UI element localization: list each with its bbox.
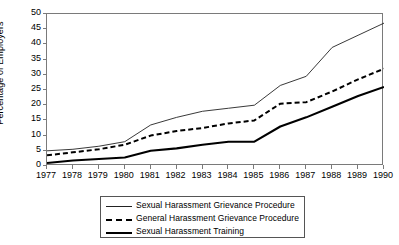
y-axis-tick-label: 45 xyxy=(23,23,41,32)
legend-item-general-harassment-grievance-procedure: General Harassment Grievance Procedure xyxy=(101,212,304,225)
line-sample-thick-solid-icon xyxy=(106,226,132,238)
y-axis-tick-label: 0 xyxy=(23,160,41,169)
plot-area xyxy=(46,13,383,165)
x-axis-tick-label: 1990 xyxy=(366,170,399,180)
y-axis-tick-label: 10 xyxy=(23,130,41,139)
legend-item-label: Sexual Harassment Training xyxy=(136,226,244,237)
series-canvas xyxy=(47,14,384,166)
y-axis-tick-label: 35 xyxy=(23,54,41,63)
y-axis-tick-label: 50 xyxy=(23,8,41,17)
y-axis-title: Percentage of Employers xyxy=(0,0,8,149)
y-axis-tick-label: 15 xyxy=(23,114,41,123)
legend-item-label: General Harassment Grievance Procedure xyxy=(136,213,299,224)
chart-figure: Percentage of Employers 0510152025303540… xyxy=(0,0,399,245)
legend-item-sexual-harassment-training: Sexual Harassment Training xyxy=(101,225,304,238)
line-sample-thin-solid-icon xyxy=(106,200,132,212)
legend-item-sexual-harassment-grievance-procedure: Sexual Harassment Grievance Procedure xyxy=(101,199,304,212)
series-line xyxy=(47,23,384,151)
y-axis-tick-label: 5 xyxy=(23,145,41,154)
legend-item-label: Sexual Harassment Grievance Procedure xyxy=(136,200,295,211)
y-axis-tick-label: 25 xyxy=(23,84,41,93)
chart-legend: Sexual Harassment Grievance Procedure Ge… xyxy=(100,196,305,238)
line-sample-dashed-icon xyxy=(106,213,132,225)
y-axis-tick-label: 30 xyxy=(23,69,41,78)
y-axis-tick-label: 20 xyxy=(23,99,41,108)
y-axis-tick-label: 40 xyxy=(23,38,41,47)
